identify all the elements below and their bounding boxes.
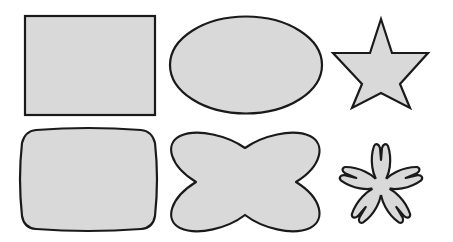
shape-butterfly: Butterfly [171, 133, 319, 231]
shape-rectangle: Rectangle [25, 16, 155, 115]
shape-five-point-star: Star [333, 19, 428, 108]
shapes-canvas: Rectangle Ellipse Star Rounded Rectangle… [0, 0, 453, 242]
shape-rounded-rectangle: Rounded Rectangle [20, 128, 157, 231]
flower-center [372, 177, 390, 195]
shape-cherry-blossom: Flower [338, 144, 423, 225]
shape-ellipse: Ellipse [170, 17, 322, 114]
